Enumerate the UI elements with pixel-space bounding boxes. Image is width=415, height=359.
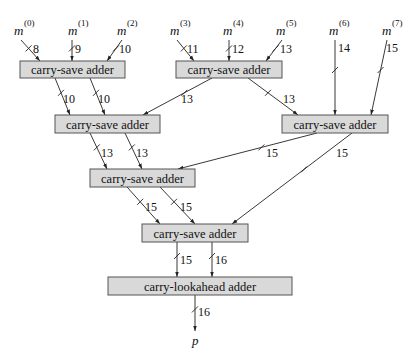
csa3-block: carry-save adder [55, 115, 160, 133]
input-index: (4) [233, 18, 244, 28]
adder-label: carry-save adder [188, 63, 272, 77]
output-variable: p [191, 333, 199, 348]
input-labels: m(0)m(1)m(2)m(3)m(4)m(5)m(6)m(7) [14, 18, 403, 38]
input-m0: m(0) [14, 18, 35, 38]
input-variable: m [14, 23, 23, 38]
input-variable: m [223, 23, 232, 38]
bus-width-label: 13 [283, 92, 295, 106]
output-label: p [191, 333, 199, 348]
input-index: (7) [392, 18, 403, 28]
bus-width-label: 15 [266, 146, 278, 160]
bus-width-label: 13 [101, 146, 113, 160]
input-variable: m [117, 23, 126, 38]
csa5-block: carry-save adder [90, 169, 195, 187]
input-index: (0) [24, 18, 35, 28]
cla-block: carry-lookahead adder [108, 277, 292, 295]
bus-width-label: 16 [215, 253, 227, 267]
input-m2: m(2) [117, 18, 138, 38]
bus-width-label: 15 [145, 200, 157, 214]
adder-blocks: carry-save addercarry-save addercarry-sa… [20, 61, 388, 295]
wire [178, 133, 317, 169]
wire [232, 133, 352, 224]
csa6-block: carry-save adder [142, 224, 248, 242]
adder-label: carry-save adder [154, 227, 238, 241]
bus-width-tick [301, 166, 307, 172]
bus-width-label: 13 [181, 92, 193, 106]
input-variable: m [68, 23, 77, 38]
input-m1: m(1) [68, 18, 89, 38]
multiplier-tree-diagram: 8910111213141510101313131315151515151616… [0, 0, 415, 359]
bus-width-tick [273, 45, 279, 51]
bus-width-label: 15 [180, 253, 192, 267]
adder-label: carry-save adder [66, 118, 150, 132]
diagram-svg: 8910111213141510101313131315151515151616… [0, 0, 415, 359]
bus-width-tick [129, 144, 135, 150]
adder-label: carry-save adder [101, 172, 185, 186]
bus-width-tick [258, 144, 264, 150]
bus-width-label: 10 [98, 92, 110, 106]
bus-width-label: 15 [180, 200, 192, 214]
bus-width-label: 9 [75, 42, 81, 56]
bus-width-label: 15 [336, 146, 348, 160]
csa4-block: carry-save adder [282, 115, 388, 133]
adder-label: carry-lookahead adder [144, 280, 257, 294]
wire [371, 40, 387, 115]
bus-width-label: 14 [338, 41, 350, 55]
bus-width-label: 13 [280, 42, 292, 56]
adder-label: carry-save adder [294, 118, 378, 132]
wire [143, 78, 212, 115]
bus-width-label: 12 [232, 42, 244, 56]
input-index: (6) [339, 18, 350, 28]
input-m4: m(4) [223, 18, 244, 38]
input-variable: m [329, 23, 338, 38]
input-m5: m(5) [276, 18, 297, 38]
input-index: (1) [78, 18, 89, 28]
adder-label: carry-save adder [31, 63, 115, 77]
bus-width-label: 15 [386, 41, 398, 55]
input-m3: m(3) [170, 18, 191, 38]
input-index: (3) [180, 18, 191, 28]
bus-width-label: 8 [33, 42, 39, 56]
input-variable: m [170, 23, 179, 38]
input-m6: m(6) [329, 18, 350, 38]
input-variable: m [276, 23, 285, 38]
csa2-block: carry-save adder [176, 61, 282, 78]
input-index: (5) [286, 18, 297, 28]
bus-width-label: 13 [136, 146, 148, 160]
bus-width-tick [94, 144, 100, 150]
input-index: (2) [127, 18, 138, 28]
input-m7: m(7) [382, 18, 403, 38]
bus-width-label: 11 [187, 42, 199, 56]
bus-width-label: 10 [63, 92, 75, 106]
bus-width-label: 10 [119, 42, 131, 56]
csa1-block: carry-save adder [20, 61, 125, 78]
bus-width-label: 16 [198, 305, 210, 319]
input-variable: m [382, 23, 391, 38]
